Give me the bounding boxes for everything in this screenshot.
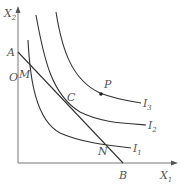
point-c-label: C bbox=[67, 91, 76, 104]
point-a-label: A bbox=[6, 46, 15, 59]
indifference-curve-i1 bbox=[28, 40, 131, 148]
origin-label: O bbox=[9, 71, 18, 84]
indifference-curve-diagram: X2 X1 O A B M C N P I1 I2 I3 bbox=[0, 0, 184, 186]
x-axis-arrow-icon bbox=[171, 161, 178, 166]
y-axis-arrow-icon bbox=[16, 6, 21, 13]
curve-i2-label: I2 bbox=[147, 119, 157, 134]
y-axis-label: X2 bbox=[3, 7, 17, 22]
point-n-label: N bbox=[97, 145, 108, 158]
point-p-label: P bbox=[103, 78, 112, 91]
x-axis-label: X1 bbox=[159, 169, 172, 184]
curve-i1-label: I1 bbox=[132, 142, 142, 157]
point-b-label: B bbox=[118, 169, 127, 182]
point-m-label: M bbox=[18, 68, 31, 81]
indifference-curve-i2 bbox=[36, 15, 146, 125]
indifference-curve-i3 bbox=[56, 12, 141, 103]
curve-i3-label: I3 bbox=[142, 97, 152, 112]
point-p-marker bbox=[99, 92, 103, 96]
